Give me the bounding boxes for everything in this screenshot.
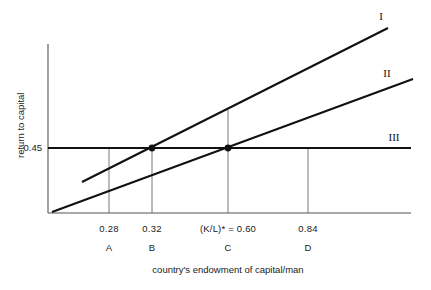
series-label-i: I xyxy=(379,11,383,22)
intersection-point-b xyxy=(149,145,156,152)
x-tick-label-c: (K/L)* = 0.60 xyxy=(200,224,256,234)
chart-figure: 0.45 return to capital 0.28 0.32 (K/L)* … xyxy=(0,0,431,290)
intersection-point-c xyxy=(225,145,232,152)
chart-plot-area xyxy=(0,0,431,290)
x-point-letter-a: A xyxy=(106,243,112,253)
x-axis-title: country's endowment of capital/man xyxy=(152,265,303,275)
series-line-ii xyxy=(52,79,413,212)
x-tick-label-a: 0.28 xyxy=(99,224,118,234)
y-axis-title: return to capital xyxy=(16,93,26,158)
x-point-letter-d: D xyxy=(305,243,312,253)
x-tick-label-d: 0.84 xyxy=(298,224,317,234)
x-point-letter-c: C xyxy=(225,243,232,253)
series-label-ii: II xyxy=(383,68,390,79)
x-point-letter-b: B xyxy=(149,243,155,253)
x-tick-label-b: 0.32 xyxy=(142,224,161,234)
series-label-iii: III xyxy=(389,132,400,143)
